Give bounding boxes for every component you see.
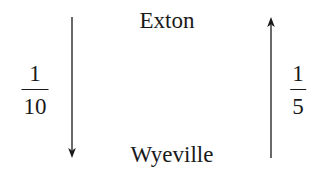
arrows-layer xyxy=(0,0,324,177)
fraction-numerator: 1 xyxy=(27,62,43,85)
fraction-denominator: 10 xyxy=(22,95,49,118)
edge-label-right-fraction: 1 5 xyxy=(290,62,306,118)
fraction-bar xyxy=(290,89,306,90)
fraction-denominator: 5 xyxy=(290,95,306,118)
arrow-up-icon xyxy=(267,17,275,158)
arrow-down-icon xyxy=(68,17,76,158)
fraction-bar xyxy=(22,89,49,90)
fraction-numerator: 1 xyxy=(290,62,306,85)
edge-label-left-fraction: 1 10 xyxy=(22,62,49,118)
